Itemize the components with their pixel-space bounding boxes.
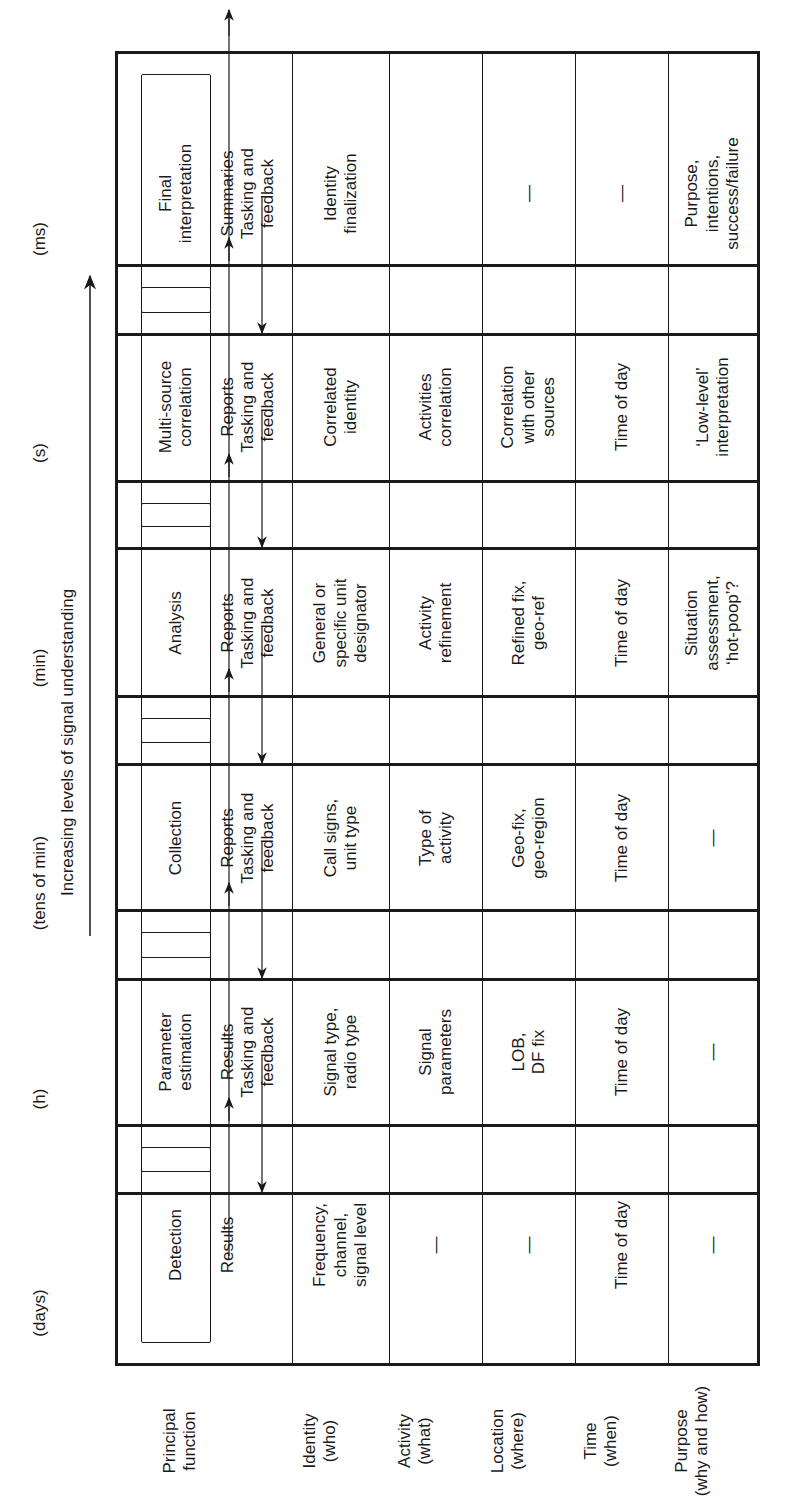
signal-understanding-diagram: (ms) (s) (min) (tens of min) (h) (days) … — [0, 0, 791, 1456]
flow-arrows — [0, 0, 791, 1456]
